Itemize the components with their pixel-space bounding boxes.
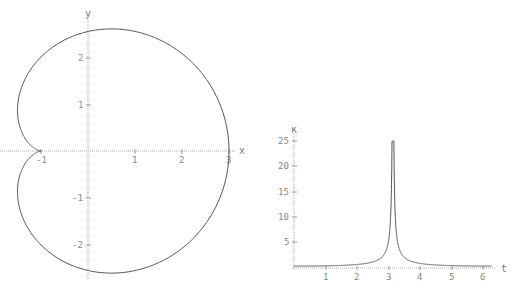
t-tick-label: 3 [386,272,391,282]
x-axis-label: x [239,145,245,156]
t-tick-label: 2 [354,272,359,282]
y-axis-label: y [85,8,91,19]
y-tick-label: -1 [72,193,83,203]
y-tick-label: 2 [78,53,83,63]
x-tick-label: 2 [179,155,184,165]
t-tick-label: 6 [480,272,485,282]
kappa-tick-label: 25 [278,136,289,146]
kappa-tick-label: 5 [284,237,289,247]
kappa-tick-label: 20 [278,161,289,171]
kappa-axis-label: κ [291,124,297,135]
y-tick-label: -2 [72,240,83,250]
figure: -1 1 2 3 2 1 -1 -2 x y 1 2 3 4 5 6 25 20 [0,0,517,289]
t-axis-label: t [501,263,507,274]
parametric-curve [18,29,230,273]
kappa-tick-label: 10 [278,212,289,222]
y-tick-label: 1 [78,100,83,110]
curvature-plot: 1 2 3 4 5 6 25 20 15 10 5 t κ [278,124,507,282]
curvature-curve [294,141,492,266]
x-tick-label: -1 [36,155,47,165]
t-tick-label: 5 [449,272,454,282]
parametric-plot: -1 1 2 3 2 1 -1 -2 x y [0,8,245,280]
x-tick-label: 1 [132,155,137,165]
t-tick-label: 4 [417,272,422,282]
t-tick-label: 1 [323,272,328,282]
kappa-tick-label: 15 [278,187,289,197]
